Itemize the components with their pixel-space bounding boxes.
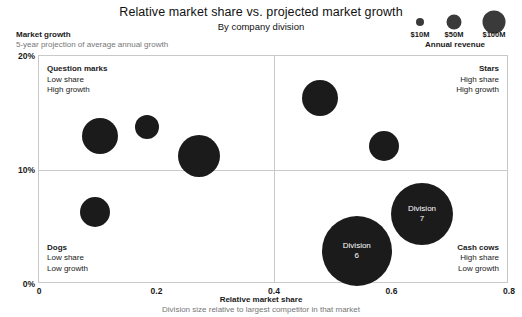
- y-axis-title: Market growth: [16, 30, 71, 39]
- legend-bubble-10m: [416, 18, 424, 26]
- bubble-point[interactable]: [80, 197, 110, 227]
- quadrant-line-2: High growth: [456, 85, 499, 96]
- quadrant-line-1: High share: [456, 75, 499, 86]
- bubble-label: Division7: [408, 204, 436, 224]
- bubble-point[interactable]: [82, 118, 118, 154]
- bubble-label: Division6: [343, 241, 371, 261]
- legend-label: $50M: [445, 30, 464, 39]
- y-axis-tick: 10%: [18, 165, 35, 175]
- bubble-point[interactable]: [369, 131, 399, 161]
- legend-title: Annual revenue: [396, 40, 514, 49]
- quadrant-label-question-marks: Question marksLow shareHigh growth: [47, 64, 107, 96]
- quadrant-name: Stars: [456, 64, 499, 75]
- quadrant-name: Question marks: [47, 64, 107, 75]
- y-axis-subtitle: 5-year projection of average annual grow…: [16, 40, 168, 49]
- quadrant-divider-vertical: [274, 56, 275, 282]
- quadrant-label-stars: StarsHigh shareHigh growth: [456, 64, 499, 96]
- quadrant-label-dogs: DogsLow shareLow growth: [47, 243, 88, 275]
- bubble-division-6[interactable]: Division6: [322, 216, 392, 286]
- plot-area: 0%10%20%00.20.40.60.8Division6Division7Q…: [38, 55, 508, 283]
- x-axis-subtitle: Division size relative to largest compet…: [0, 305, 522, 314]
- bubble-point[interactable]: [178, 135, 220, 177]
- quadrant-line-2: High growth: [47, 85, 107, 96]
- legend-bubbles: $10M$50M$100M: [396, 2, 514, 30]
- y-axis-tick: 0%: [23, 279, 35, 289]
- quadrant-name: Cash cows: [457, 243, 499, 254]
- legend-label: $10M: [411, 30, 430, 39]
- quadrant-line-1: High share: [457, 253, 499, 264]
- bubble-division-7[interactable]: Division7: [391, 183, 453, 245]
- quadrant-label-cash-cows: Cash cowsHigh shareLow growth: [457, 243, 499, 275]
- legend-label: $100M: [483, 30, 506, 39]
- y-axis-tick: 20%: [18, 51, 35, 61]
- quadrant-line-1: Low share: [47, 253, 88, 264]
- bubble-point[interactable]: [302, 80, 338, 116]
- legend-bubble-50m: [447, 15, 462, 30]
- quadrant-line-2: Low growth: [47, 264, 88, 275]
- quadrant-name: Dogs: [47, 243, 88, 254]
- quadrant-line-2: Low growth: [457, 264, 499, 275]
- bubble-chart: Relative market share vs. projected mark…: [0, 0, 522, 317]
- size-legend: $10M$50M$100M Annual revenue: [396, 2, 514, 50]
- bubble-point[interactable]: [135, 115, 159, 139]
- x-axis-title: Relative market share: [0, 295, 522, 304]
- quadrant-divider-horizontal: [39, 170, 507, 171]
- quadrant-line-1: Low share: [47, 75, 107, 86]
